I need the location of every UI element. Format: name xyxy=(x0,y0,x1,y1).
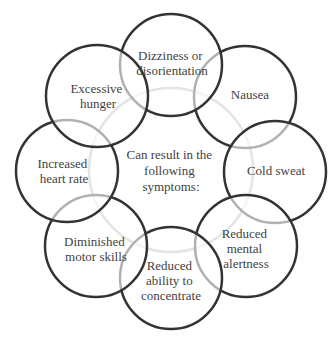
label-line: Dizziness or xyxy=(138,48,203,63)
label-line: disorientation xyxy=(136,63,208,78)
label-reduced-ability-to-concentrate: Reduced ability to concentrate xyxy=(141,258,201,303)
center-label-line-3: symptoms: xyxy=(142,179,199,194)
label-line: alertness xyxy=(223,256,268,271)
label-cold-sweat: Cold sweat xyxy=(247,163,306,178)
label-line: mental xyxy=(227,241,263,256)
label-line: concentrate xyxy=(141,288,201,303)
label-line: Cold sweat xyxy=(247,163,306,178)
label-nausea: Nausea xyxy=(231,87,269,102)
label-line: heart rate xyxy=(40,171,89,186)
label-line: Excessive xyxy=(70,81,122,96)
center-label-line-2: following xyxy=(144,163,195,178)
label-line: Nausea xyxy=(231,87,269,102)
label-line: ability to xyxy=(146,273,193,288)
label-line: Reduced xyxy=(147,258,193,273)
label-dizziness-or-disorientation: Dizziness or disorientation xyxy=(136,48,208,78)
label-line: Increased xyxy=(37,156,87,171)
label-line: Diminished xyxy=(64,234,125,249)
label-line: hunger xyxy=(80,96,117,111)
label-diminished-motor-skills: Diminished motor skills xyxy=(64,234,128,264)
label-reduced-mental-alertness: Reduced mental alertness xyxy=(222,226,271,271)
label-line: motor skills xyxy=(65,249,127,264)
symptom-cycle-diagram: Can result in the following symptoms: Na… xyxy=(0,0,334,340)
center-label-line-1: Can result in the xyxy=(127,147,213,162)
label-line: Reduced xyxy=(222,226,268,241)
label-increased-heart-rate: Increased heart rate xyxy=(37,156,90,186)
